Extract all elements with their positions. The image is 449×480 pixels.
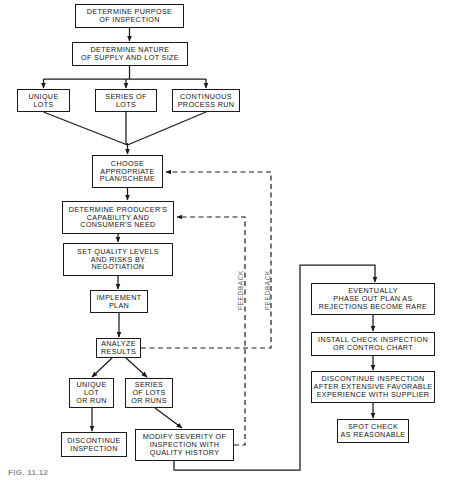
connector-series-runs-to-modify [155,408,182,428]
node-analyze-results[interactable]: ANALYZE RESULTS [96,338,141,358]
node-determine-nature[interactable]: DETERMINE NATURE OF SUPPLY AND LOT SIZE [72,42,188,66]
node-spot-check[interactable]: SPOT CHECK AS REASONABLE [337,419,409,443]
node-eventually-phase-out[interactable]: EVENTUALLY PHASE OUT PLAN AS REJECTIONS … [311,283,435,315]
node-set-quality-levels[interactable]: SET QUALITY LEVELS AND RISKS BY NEGOTIAT… [63,243,173,276]
feedback-label-outer: FEEDBACK [237,270,244,310]
connector-continuous-to-choose [128,112,207,145]
node-unique-lots[interactable]: UNIQUE LOTS [17,89,70,112]
node-determine-purpose[interactable]: DETERMINE PURPOSE OF INSPECTION [75,4,184,28]
figure-caption: FIG. 11.12 [8,468,48,477]
node-line: AS REASONABLE [341,431,406,439]
node-line: PROCESS RUN [178,101,235,109]
node-line: PLAN [109,302,129,310]
node-line: QUALITY HISTORY [150,449,220,457]
node-install-check-inspection[interactable]: INSTALL CHECK INSPECTION OR CONTROL CHAR… [311,332,435,356]
flowchart-canvas: DETERMINE PURPOSE OF INSPECTION DETERMIN… [0,0,449,480]
node-line: CONSUMER'S NEED [80,221,155,229]
connector-analyze-to-unique-lot [92,358,112,377]
node-series-of-lots[interactable]: SERIES OF LOTS [95,89,157,112]
node-implement-plan[interactable]: IMPLEMENT PLAN [90,290,148,313]
flowchart-connectors [0,0,449,480]
connector-analyze-to-series-runs [126,358,147,377]
node-line: OR RUNS [131,397,167,405]
node-line: PLAN/SCHEME [100,175,155,183]
node-line: LOTS [116,101,136,109]
node-line: REJECTIONS BECOME RARE [319,303,427,311]
node-unique-lot-or-run[interactable]: UNIQUE LOT OR RUN [69,378,114,408]
node-discontinue-after-experience[interactable]: DISCONTINUE INSPECTION AFTER EXTENSIVE F… [311,371,435,403]
node-line: EXPERIENCE WITH SUPPLIER [317,391,430,399]
node-series-of-lots-or-runs[interactable]: SERIES OF LOTS OR RUNS [125,378,173,408]
node-line: OF SUPPLY AND LOT SIZE [81,54,179,62]
node-line: OF INSPECTION [99,16,159,24]
node-continuous-process-run[interactable]: CONTINUOUS PROCESS RUN [172,89,240,112]
node-choose-plan[interactable]: CHOOSE APPROPRIATE PLAN/SCHEME [92,155,163,188]
feedback-label-inner: FEEDBACK [264,270,271,310]
connector-unique-lots-to-choose [44,112,128,145]
node-modify-severity[interactable]: MODIFY SEVERITY OF INSPECTION WITH QUALI… [135,429,234,461]
node-discontinue-inspection[interactable]: DISCONTINUE INSPECTION [61,432,127,457]
feedback-loop-inner-modify-to-capability [177,217,245,445]
node-line: LOTS [33,101,53,109]
node-line: OR RUN [76,397,106,405]
node-determine-capability[interactable]: DETERMINE PRODUCER'S CAPABILITY AND CONS… [62,201,174,234]
node-line: NEGOTIATION [92,263,145,271]
node-line: OR CONTROL CHART [333,344,413,352]
node-line: RESULTS [101,348,136,356]
node-line: INSPECTION [70,445,117,453]
